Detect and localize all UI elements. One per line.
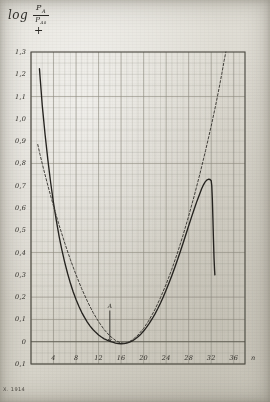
y-tick-label: 0	[2, 338, 26, 346]
x-tick-label: 32	[203, 354, 219, 362]
y-tick-label: 1,1	[2, 93, 26, 101]
y-tick-label: 0,8	[2, 159, 26, 167]
y-tick-label: 0,6	[2, 204, 26, 212]
y-tick-label: 1,0	[2, 115, 26, 123]
y-tick-label: 0,5	[2, 226, 26, 234]
y-tick-label: 1,3	[2, 48, 26, 56]
y-tick-label: 0,7	[2, 182, 26, 190]
y-tick-label: 0,2	[2, 293, 26, 301]
y-tick-label: 0,1	[2, 360, 26, 368]
x-tick-label: 12	[91, 354, 107, 362]
y-tick-label: 0,4	[2, 249, 26, 257]
x-tick-label: 8	[68, 354, 84, 362]
y-tick-label: 0,1	[2, 315, 26, 323]
x-tick-label: 4	[46, 354, 62, 362]
x-axis-variable-label: n	[251, 354, 255, 362]
x-tick-label: 28	[181, 354, 197, 362]
plate-caption: X. 1914	[3, 386, 25, 392]
annotation-label-a: A	[108, 302, 112, 309]
y-tick-label: 0,3	[2, 271, 26, 279]
chart-svg	[0, 0, 270, 402]
x-tick-label: 20	[136, 354, 152, 362]
x-tick-label: 16	[113, 354, 129, 362]
chart-area: A0,100,10,20,30,40,50,60,70,80,91,01,11,…	[0, 0, 270, 402]
y-tick-label: 0,9	[2, 137, 26, 145]
x-tick-label: 36	[226, 354, 242, 362]
x-tick-label: 24	[158, 354, 174, 362]
y-tick-label: 1,2	[2, 70, 26, 78]
